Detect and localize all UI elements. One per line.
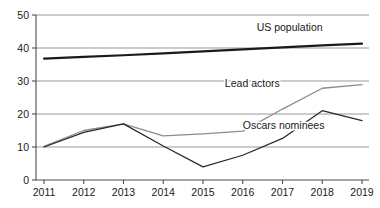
chart-background: [0, 0, 380, 208]
x-axis: 201120122013201420152016201720182019: [33, 180, 374, 198]
series-label: US population: [257, 21, 323, 33]
y-axis-tick-label: 0: [23, 174, 29, 186]
x-axis-tick-label: 2017: [271, 186, 295, 198]
x-axis-tick-label: 2014: [152, 186, 176, 198]
line-chart: 01020304050 2011201220132014201520162017…: [0, 0, 380, 208]
x-axis-tick-label: 2018: [311, 186, 335, 198]
x-axis-tick-label: 2016: [231, 186, 255, 198]
chart-canvas: 01020304050 2011201220132014201520162017…: [0, 0, 380, 208]
x-axis-tick-label: 2011: [33, 186, 56, 198]
x-axis-tick-labels: 201120122013201420152016201720182019: [33, 186, 374, 198]
y-axis-tick-label: 50: [17, 9, 29, 21]
series-label: Oscars nominees: [243, 119, 325, 131]
x-axis-tick-label: 2013: [112, 186, 136, 198]
y-axis-tick-label: 20: [17, 108, 29, 120]
series-label: Lead actors: [225, 77, 280, 89]
y-axis-tick-label: 10: [17, 141, 29, 153]
x-axis-tick-label: 2015: [191, 186, 215, 198]
y-axis-tick-label: 40: [17, 42, 29, 54]
y-axis-tick-label: 30: [17, 75, 29, 87]
x-axis-tick-label: 2012: [72, 186, 96, 198]
x-axis-tick-label: 2019: [350, 186, 374, 198]
